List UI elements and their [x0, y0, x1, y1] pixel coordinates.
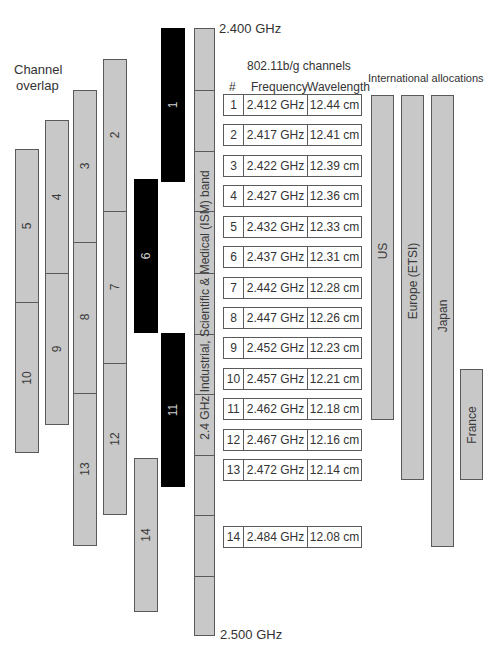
channel-divider [104, 211, 126, 212]
channel-wavelength: 12.41 cm [308, 125, 361, 145]
table-title: 802.11b/g channels [247, 59, 351, 73]
channel-divider [104, 363, 126, 364]
channel-number: 10 [224, 369, 244, 389]
channel-divider [74, 242, 96, 243]
channel-wavelength: 12.14 cm [308, 460, 361, 480]
channel-6-bar: 6 [134, 179, 158, 333]
channel-overlap-title-line1: Channel [14, 62, 62, 77]
allocation-us-label: US [376, 243, 390, 260]
channel-wavelength: 12.16 cm [308, 430, 361, 450]
channel-frequency: 2.427 GHz [244, 186, 308, 206]
channel-4-label: 4 [50, 194, 64, 201]
channel-wavelength: 12.28 cm [308, 278, 361, 298]
table-row: 122.467 GHz12.16 cm [223, 429, 362, 451]
table-header-number: # [229, 80, 236, 94]
channel-wavelength: 12.31 cm [308, 247, 361, 267]
channel-frequency: 2.472 GHz [244, 460, 308, 480]
table-row: 82.447 GHz12.26 cm [223, 307, 362, 329]
channel-wavelength: 12.33 cm [308, 217, 361, 237]
table-header-frequency: Frequency [251, 80, 308, 94]
channel-frequency: 2.417 GHz [244, 125, 308, 145]
channel-frequency: 2.442 GHz [244, 278, 308, 298]
channel-frequency: 2.484 GHz [244, 527, 308, 547]
band-divider [195, 455, 214, 456]
table-row: 92.452 GHz12.23 cm [223, 337, 362, 359]
channel-frequency: 2.432 GHz [244, 217, 308, 237]
channel-column-c: 3 8 13 [73, 90, 97, 546]
channel-wavelength: 12.21 cm [308, 369, 361, 389]
channel-frequency: 2.422 GHz [244, 156, 308, 176]
channel-column-a: 5 10 [15, 149, 39, 453]
band-divider [195, 576, 214, 577]
allocation-europe-bar: Europe (ETSI) [401, 95, 424, 480]
channel-9-label: 9 [50, 346, 64, 353]
channel-7-label: 7 [108, 284, 122, 291]
ism-band-label: 2.4 GHz Industrial, Scientific & Medical… [198, 170, 212, 439]
ism-band-bar: 2.4 GHz Industrial, Scientific & Medical… [194, 28, 215, 636]
channel-14-bar: 14 [134, 458, 158, 612]
channel-number: 11 [224, 399, 244, 419]
channel-divider [46, 273, 68, 274]
channel-1-bar: 1 [161, 28, 185, 182]
international-allocations-title: International allocations [368, 72, 484, 84]
channel-14-label: 14 [139, 528, 153, 541]
channel-11-label: 11 [166, 404, 180, 416]
channel-number: 2 [224, 125, 244, 145]
channel-6-label: 6 [139, 253, 153, 260]
channel-1-label: 1 [166, 102, 180, 109]
channel-number: 7 [224, 278, 244, 298]
table-row: 112.462 GHz12.18 cm [223, 398, 362, 420]
table-row: 142.484 GHz12.08 cm [223, 526, 362, 548]
allocation-europe-label: Europe (ETSI) [406, 243, 420, 320]
table-row: 102.457 GHz12.21 cm [223, 368, 362, 390]
allocation-france-bar: France [460, 369, 483, 480]
channel-wavelength: 12.39 cm [308, 156, 361, 176]
channel-number: 8 [224, 308, 244, 328]
table-header-wavelength: Wavelength [307, 80, 370, 94]
channel-frequency: 2.467 GHz [244, 430, 308, 450]
table-row: 132.472 GHz12.14 cm [223, 459, 362, 481]
channel-frequency: 2.452 GHz [244, 338, 308, 358]
channel-frequency: 2.412 GHz [244, 95, 308, 115]
channel-number: 1 [224, 95, 244, 115]
table-row: 52.432 GHz12.33 cm [223, 216, 362, 238]
allocation-japan-bar: Japan [431, 95, 454, 547]
channel-column-d: 2 7 12 [103, 59, 127, 515]
channel-frequency: 2.462 GHz [244, 399, 308, 419]
top-frequency-label: 2.400 GHz [219, 21, 281, 36]
channel-wavelength: 12.44 cm [308, 95, 361, 115]
channel-frequency: 2.447 GHz [244, 308, 308, 328]
table-row: 22.417 GHz12.41 cm [223, 124, 362, 146]
channel-8-label: 8 [78, 314, 92, 321]
channel-number: 14 [224, 527, 244, 547]
table-row: 12.412 GHz12.44 cm [223, 94, 362, 116]
channel-11-bar: 11 [161, 333, 185, 487]
band-divider [195, 515, 214, 516]
table-row: 62.437 GHz12.31 cm [223, 246, 362, 268]
channel-2-label: 2 [108, 132, 122, 139]
table-row: 42.427 GHz12.36 cm [223, 185, 362, 207]
channel-frequency: 2.457 GHz [244, 369, 308, 389]
channel-number: 12 [224, 430, 244, 450]
channel-divider [16, 302, 38, 303]
channel-number: 5 [224, 217, 244, 237]
channel-12-label: 12 [108, 432, 122, 445]
channel-overlap-title-line2: overlap [16, 78, 59, 93]
channel-wavelength: 12.26 cm [308, 308, 361, 328]
band-divider [195, 151, 214, 152]
channel-wavelength: 12.08 cm [308, 527, 361, 547]
channel-wavelength: 12.36 cm [308, 186, 361, 206]
channel-5-label: 5 [20, 223, 34, 230]
channel-wavelength: 12.18 cm [308, 399, 361, 419]
channel-number: 3 [224, 156, 244, 176]
channel-wavelength: 12.23 cm [308, 338, 361, 358]
channel-number: 13 [224, 460, 244, 480]
allocation-japan-label: Japan [436, 300, 450, 333]
channel-3-label: 3 [78, 163, 92, 170]
channel-frequency: 2.437 GHz [244, 247, 308, 267]
channel-10-label: 10 [20, 371, 34, 384]
allocation-us-bar: US [371, 95, 394, 420]
bottom-frequency-label: 2.500 GHz [220, 627, 282, 642]
channel-number: 9 [224, 338, 244, 358]
table-row: 32.422 GHz12.39 cm [223, 155, 362, 177]
